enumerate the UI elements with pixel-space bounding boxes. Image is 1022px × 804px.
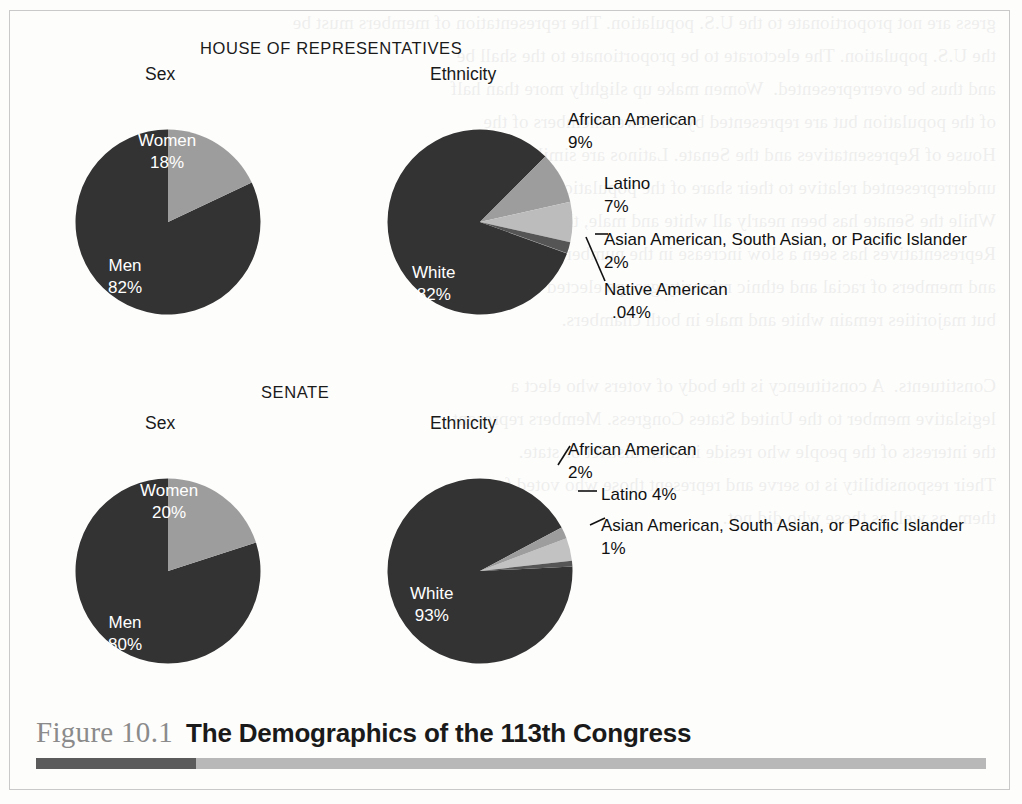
callout-senate-eth-african-american-pct: 2% [568, 461, 697, 484]
callout-house-eth-asian-text: Asian American, South Asian, or Pacific … [604, 230, 967, 249]
callout-house-eth-latino-pct: 7% [604, 195, 650, 218]
chart-title-house-sex: Sex [145, 64, 175, 85]
callout-senate-eth-african-american-text: African American [568, 440, 697, 459]
callout-house-eth-african-american-text: African American [568, 110, 697, 129]
callout-house-eth-latino: Latino 7% [604, 172, 650, 218]
callout-house-eth-asian: Asian American, South Asian, or Pacific … [604, 228, 967, 274]
caption-rule-dark-segment [36, 758, 196, 769]
pie-chart-senate-sex[interactable] [43, 446, 293, 696]
slice-senate-eth-white[interactable] [388, 479, 573, 664]
section-heading-house: HOUSE OF REPRESENTATIVES [200, 39, 462, 58]
callout-house-eth-latino-text: Latino [604, 174, 650, 193]
callout-senate-eth-asian-text: Asian American, South Asian, or Pacific … [601, 516, 964, 535]
callout-house-eth-african-american: African American 9% [568, 108, 697, 154]
callout-house-eth-african-american-pct: 9% [568, 131, 697, 154]
caption-rule-light-segment [196, 758, 986, 769]
section-heading-senate: SENATE [261, 383, 329, 402]
figure-title: The Demographics of the 113th Congress [186, 718, 691, 748]
callout-senate-eth-latino-text: Latino 4% [601, 485, 677, 504]
chart-title-senate-sex: Sex [145, 413, 175, 434]
callout-senate-eth-asian-pct: 1% [601, 537, 964, 560]
callout-senate-eth-african-american: African American 2% [568, 438, 697, 484]
figure-caption: Figure 10.1The Demographics of the 113th… [36, 716, 691, 749]
chart-title-house-ethnicity: Ethnicity [430, 64, 496, 85]
caption-rule-bar [36, 758, 986, 769]
callout-house-eth-native-pct: .04% [612, 301, 728, 324]
chart-title-senate-ethnicity: Ethnicity [430, 413, 496, 434]
pie-chart-house-sex[interactable] [43, 97, 293, 347]
callout-house-eth-native-text: Native American [604, 280, 728, 299]
callout-senate-eth-latino: Latino 4% [601, 483, 677, 506]
callout-senate-eth-asian: Asian American, South Asian, or Pacific … [601, 514, 964, 560]
callout-house-eth-asian-pct: 2% [604, 251, 967, 274]
callout-house-eth-native: Native American .04% [604, 278, 728, 324]
figure-number: Figure 10.1 [36, 716, 173, 748]
